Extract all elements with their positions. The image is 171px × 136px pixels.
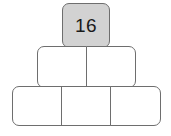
pyramid-row-middle [37, 46, 136, 88]
pyramid-row-top: 16 [62, 3, 110, 48]
pyramid-row-bottom [12, 86, 161, 126]
pyramid-cell-bottom-3[interactable] [110, 86, 161, 126]
pyramid-cell-bottom-2[interactable] [61, 86, 112, 126]
pyramid-cell-bottom-1[interactable] [12, 86, 63, 126]
pyramid-cell-middle-1[interactable] [37, 46, 87, 88]
pyramid-cell-value: 16 [75, 16, 97, 35]
pyramid-cell-top-1[interactable]: 16 [62, 3, 110, 48]
pyramid-cell-middle-2[interactable] [86, 46, 136, 88]
number-pyramid-figure: 16 [0, 0, 171, 136]
